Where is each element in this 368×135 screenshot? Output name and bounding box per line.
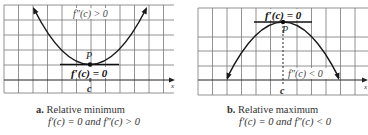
x-axis-label: x <box>363 83 368 91</box>
figure-b-relative-maximum: x c P f′(c) = 0 f″(c) < 0 <box>184 0 368 100</box>
caption-b: b. Relative maximum f′(c) = 0 and f″(c) … <box>227 104 331 128</box>
caption-b-condition: f′(c) = 0 and f″(c) < 0 <box>239 116 331 127</box>
curve-arrow-left-icon <box>227 73 232 81</box>
x-axis-arrow-icon <box>362 78 368 83</box>
curve-arrow-right-icon <box>335 73 340 81</box>
caption-b-title: Relative maximum <box>238 104 318 115</box>
point-p-label-b: P <box>281 24 288 35</box>
point-p-label-a: P <box>85 50 92 61</box>
caption-b-letter: b. <box>227 104 235 115</box>
curve-arrow-right-icon <box>142 7 148 15</box>
x-axis-label: x <box>170 82 175 90</box>
graph-a: x c P f″(c) > 0 f′(c) = 0 <box>0 0 184 100</box>
caption-a-title: Relative minimum <box>47 104 125 115</box>
caption-a-condition: f′(c) = 0 and f″(c) > 0 <box>48 116 140 127</box>
figure-a-relative-minimum: x c P f″(c) > 0 f′(c) = 0 <box>0 0 184 100</box>
curve-arrow-left-icon <box>33 7 39 15</box>
second-derivative-label-a: f″(c) > 0 <box>73 8 108 20</box>
c-label-a: c <box>87 83 92 94</box>
tangent-label-b: f′(c) = 0 <box>265 9 302 22</box>
tangent-label-a: f′(c) = 0 <box>71 67 108 80</box>
c-label-b: c <box>280 85 285 96</box>
caption-a: a. Relative minimum f′(c) = 0 and f″(c) … <box>36 104 140 128</box>
caption-a-letter: a. <box>36 104 44 115</box>
second-derivative-label-b: f″(c) < 0 <box>288 68 323 80</box>
graph-b: x c P f′(c) = 0 f″(c) < 0 <box>184 0 368 100</box>
